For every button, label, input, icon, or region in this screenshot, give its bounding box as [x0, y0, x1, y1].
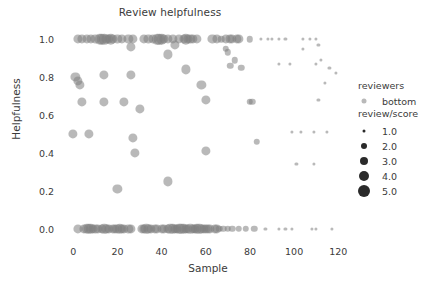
- scatter-point: [225, 49, 232, 56]
- scatter-point: [126, 42, 135, 51]
- scatter-point: [301, 38, 304, 41]
- legend-group-review-score: 1.02.03.04.05.0: [356, 123, 436, 198]
- x-axis-tick-label: 80: [244, 246, 256, 257]
- scatter-point: [259, 38, 262, 41]
- x-axis-tick-group: 020406080100120: [60, 246, 356, 260]
- scatter-point: [284, 227, 287, 230]
- scatter-point: [335, 72, 338, 75]
- scatter-point: [236, 225, 243, 232]
- scatter-point: [84, 129, 93, 138]
- scatter-point: [284, 38, 287, 41]
- scatter-point: [264, 227, 267, 230]
- scatter-point: [270, 38, 273, 41]
- legend-review-score-marker-icon: [359, 171, 369, 181]
- chart-legend: reviewers bottom review/score 1.02.03.04…: [356, 80, 436, 198]
- legend-review-score-marker-icon: [361, 143, 367, 149]
- legend-group-reviewers: bottom: [356, 93, 436, 108]
- scatter-point: [301, 47, 304, 50]
- scatter-point: [317, 98, 320, 101]
- y-axis-label: Helpfulness: [10, 44, 22, 174]
- legend-title-reviewers: reviewers: [358, 80, 436, 91]
- scatter-point: [238, 64, 245, 71]
- x-axis-tick-label: 20: [111, 246, 123, 257]
- chart-title: Review helpfulness: [0, 6, 340, 18]
- scatter-point: [234, 35, 243, 44]
- y-axis-tick-label: 1.0: [8, 34, 54, 45]
- scatter-point: [100, 71, 109, 80]
- legend-review-score-label: 1.0: [382, 125, 397, 136]
- scatter-point: [77, 97, 86, 106]
- scatter-point: [128, 133, 137, 142]
- scatter-point: [315, 227, 318, 230]
- scatter-point: [315, 38, 318, 41]
- legend-review-score-row[interactable]: 2.0: [356, 138, 436, 153]
- y-axis-tick-label: 0.0: [8, 223, 54, 234]
- scatter-point: [229, 225, 236, 232]
- scatter-point: [290, 227, 293, 230]
- legend-review-score-label: 3.0: [382, 155, 397, 166]
- scatter-point: [317, 43, 320, 46]
- legend-review-score-row[interactable]: 4.0: [356, 168, 436, 183]
- y-axis-tick-label: 0.2: [8, 185, 54, 196]
- scatter-point: [319, 58, 322, 61]
- scatter-point: [290, 130, 293, 133]
- legend-reviewers-label: bottom: [382, 95, 416, 106]
- scatter-point: [164, 50, 173, 59]
- scatter-point: [312, 163, 315, 166]
- scatter-point: [323, 81, 326, 84]
- plot-area: [60, 24, 356, 242]
- scatter-point: [113, 184, 122, 193]
- scatter-point: [299, 130, 302, 133]
- scatter-point: [288, 62, 291, 65]
- scatter-point: [192, 35, 201, 44]
- scatter-point: [315, 62, 318, 65]
- x-axis-tick-label: 0: [70, 246, 76, 257]
- scatter-point: [328, 66, 331, 69]
- x-axis-label: Sample: [60, 262, 356, 274]
- legend-review-score-row[interactable]: 5.0: [356, 183, 436, 198]
- scatter-point: [249, 98, 256, 105]
- legend-reviewers-row[interactable]: bottom: [356, 93, 436, 108]
- scatter-point: [126, 224, 135, 233]
- scatter-point: [312, 130, 315, 133]
- scatter-point: [201, 95, 210, 104]
- scatter-point: [164, 177, 173, 186]
- scatter-point: [227, 62, 234, 69]
- legend-review-score-row[interactable]: 3.0: [356, 153, 436, 168]
- scatter-point: [277, 62, 280, 65]
- x-axis-tick-label: 100: [285, 246, 303, 257]
- scatter-point: [247, 36, 254, 43]
- chart-figure: Review helpfulness 0.00.20.40.60.81.0 He…: [0, 0, 436, 293]
- x-axis-tick-label: 40: [156, 246, 168, 257]
- scatter-point: [253, 138, 260, 145]
- scatter-point: [181, 65, 190, 74]
- legend-title-review-score: review/score: [358, 108, 436, 119]
- scatter-point: [251, 225, 258, 232]
- legend-review-score-label: 2.0: [382, 140, 397, 151]
- scatter-point: [126, 71, 135, 80]
- scatter-point: [277, 38, 280, 41]
- legend-review-score-marker-icon: [358, 185, 370, 197]
- scatter-point: [69, 129, 78, 138]
- legend-review-score-row[interactable]: 1.0: [356, 123, 436, 138]
- scatter-point: [75, 80, 84, 89]
- scatter-point: [100, 97, 109, 106]
- x-axis-tick-label: 60: [200, 246, 212, 257]
- legend-review-score-marker-icon: [360, 157, 368, 165]
- scatter-point: [135, 105, 144, 114]
- scatter-point: [310, 227, 313, 230]
- scatter-point: [308, 38, 311, 41]
- scatter-point: [119, 97, 128, 106]
- scatter-point: [330, 227, 333, 230]
- scatter-point: [242, 225, 249, 232]
- scatter-point: [266, 38, 269, 41]
- scatter-point: [201, 146, 210, 155]
- scatter-point: [197, 80, 206, 89]
- scatter-point: [170, 40, 179, 49]
- scatter-point: [277, 227, 280, 230]
- legend-reviewers-marker-icon: [362, 98, 367, 103]
- scatter-point: [295, 163, 298, 166]
- legend-review-score-label: 5.0: [382, 185, 397, 196]
- scatter-point: [131, 148, 140, 157]
- x-axis-tick-label: 120: [329, 246, 347, 257]
